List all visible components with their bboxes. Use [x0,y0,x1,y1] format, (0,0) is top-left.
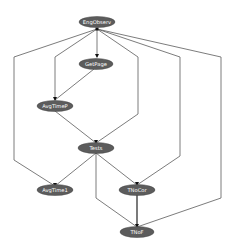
node-label: TNoCor [126,187,147,193]
node-avgtime1[interactable]: AvgTime1 [37,185,73,196]
node-label: GetPage [85,61,107,68]
edges [14,29,221,227]
arrowhead-icon [95,54,99,58]
node-avgtimep[interactable]: AvgTimeP [37,101,73,112]
edge-engobserv-tnocor [97,29,180,185]
edge-tests-avgtime1 [55,153,96,186]
edge-engobserv-tests [96,29,138,143]
node-label: TNoF [129,229,143,235]
node-tests[interactable]: Tests [78,143,114,154]
edge-tests-tnocor [96,153,137,185]
anchor-dot-icon [96,28,99,31]
node-label: AvgTimeP [42,103,67,110]
edge-avgtimep-tests [55,111,96,143]
node-getpage[interactable]: GetPage [79,59,113,70]
node-tnof[interactable]: TNoF [120,227,154,238]
edge-engobserv-tnof [97,29,221,227]
node-tnocor[interactable]: TNoCor [119,185,155,196]
edge-getpage-avgtimep [55,69,94,100]
dependency-graph: EngObserv GetPage AvgTimeP Tests AvgTime… [0,0,233,252]
node-label: AvgTime1 [42,187,68,194]
node-engobserv[interactable]: EngObserv [79,17,115,28]
node-label: EngObserv [83,19,111,26]
node-label: Tests [89,145,103,151]
